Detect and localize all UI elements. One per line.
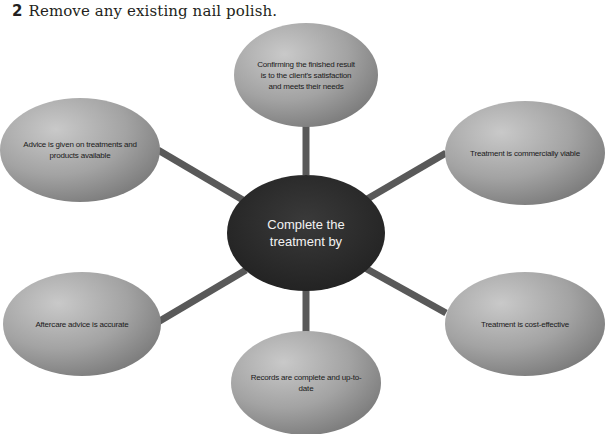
node-upper-left-label: Advice is given on treatments and produc… bbox=[5, 110, 155, 190]
node-bottom-label: Records are complete and up-to-date bbox=[232, 343, 380, 423]
node-lower-left-label: Aftercare advice is accurate bbox=[7, 284, 157, 364]
node-lower-right-label: Treatment is cost-effective bbox=[450, 284, 600, 364]
node-upper-right-label: Treatment is commercially viable bbox=[450, 113, 600, 193]
center-node-label: Complete the treatment by bbox=[227, 185, 385, 281]
node-top-label: Confirming the finished result is to the… bbox=[236, 35, 376, 115]
